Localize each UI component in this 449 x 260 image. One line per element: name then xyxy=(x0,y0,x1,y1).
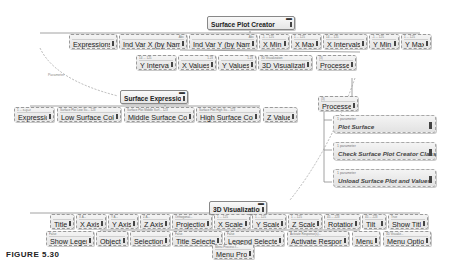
node-label: Processes xyxy=(322,102,351,111)
grip-icon[interactable] xyxy=(207,221,209,226)
grip-icon[interactable] xyxy=(251,62,253,67)
objects-node[interactable]: Objects xyxy=(96,231,128,246)
grip-icon[interactable] xyxy=(355,221,357,226)
collapse-icon[interactable]: ▬ xyxy=(286,16,292,21)
y-scale-node[interactable]: 1 ... 125 Y Scale xyxy=(252,214,286,229)
3d-visualization-node[interactable]: 3D Visualization ▬ xyxy=(209,201,267,215)
grip-icon[interactable] xyxy=(279,238,281,243)
expression-node[interactable]: 1 ... x+y+z Expression xyxy=(14,107,54,122)
grip-icon[interactable] xyxy=(351,62,353,67)
show-title-node[interactable]: True Show Title xyxy=(388,214,428,229)
grip-icon[interactable] xyxy=(133,221,135,226)
show-legend-node[interactable]: False Show Legend xyxy=(46,231,94,246)
grip-icon[interactable] xyxy=(284,41,286,46)
node-label: Ind Var X (by Name) xyxy=(123,40,180,49)
grip-icon[interactable] xyxy=(123,238,125,243)
low-surface-color-node[interactable]: Surface Plot Low Su... 123 Low Surface C… xyxy=(57,107,121,122)
collapse-icon[interactable]: ▬ xyxy=(258,201,264,206)
grip-icon[interactable] xyxy=(394,41,396,46)
grip-icon[interactable] xyxy=(189,114,191,119)
process-unload[interactable]: 1 parameter Unload Surface Plot and Valu… xyxy=(333,169,436,187)
grip-icon[interactable] xyxy=(316,41,318,46)
grip-icon[interactable] xyxy=(317,221,319,226)
grip-icon[interactable] xyxy=(292,114,294,119)
title-node[interactable]: Title xyxy=(50,214,74,229)
y-min-node[interactable]: -1 ... 125 Y Min xyxy=(369,34,399,49)
ind-var-y-node[interactable]: Abc Ind Var Y (by Name) xyxy=(189,34,257,49)
x-max-node[interactable]: 1 ... 125 X Max xyxy=(291,34,321,49)
node-label: Menu Process xyxy=(216,250,247,259)
high-surface-color-node[interactable]: Surface Plot High Su... 123 High Surface… xyxy=(196,107,260,122)
grip-icon[interactable] xyxy=(165,221,167,226)
grip-icon[interactable] xyxy=(255,114,257,119)
selections-node[interactable]: Selections xyxy=(130,231,170,246)
grip-icon[interactable] xyxy=(89,238,91,243)
x-scale-node[interactable]: 1 ... 125 X Scale xyxy=(214,214,250,229)
grip-icon[interactable] xyxy=(353,103,355,108)
grip-icon[interactable] xyxy=(429,176,432,183)
grip-icon[interactable] xyxy=(211,62,213,67)
grip-icon[interactable] xyxy=(381,221,383,226)
y-values-node[interactable]: 1.23 Y Values xyxy=(218,55,256,70)
grip-icon[interactable] xyxy=(101,221,103,226)
x-axis-node[interactable]: X A... X Axis xyxy=(76,214,106,229)
grip-icon[interactable] xyxy=(69,221,71,226)
menu-options-node[interactable]: 3D Visualiz... Menu Options xyxy=(383,231,431,246)
middle-surface-color-node[interactable]: Surface Plot Middle Surf... 123 Middle S… xyxy=(124,107,194,122)
node-label: Menu Options xyxy=(387,237,424,246)
grip-icon[interactable] xyxy=(49,114,51,119)
grip-icon[interactable] xyxy=(429,122,432,129)
menu-process-node[interactable]: Menu Process f... Menu Process xyxy=(212,244,254,259)
process-check-class[interactable]: 1 parameter Check Surface Plot Creator C… xyxy=(333,142,436,160)
grip-icon[interactable] xyxy=(217,238,219,243)
node-label: Tilt xyxy=(366,220,379,229)
process-plot-surface[interactable]: 1 parameter Plot Surface xyxy=(333,115,436,133)
grip-icon[interactable] xyxy=(262,207,264,212)
grip-icon[interactable] xyxy=(182,41,184,46)
grip-icon[interactable] xyxy=(426,41,428,46)
node-label: X Scale xyxy=(218,220,243,229)
activate-response-node[interactable]: Activate Response(s)... Activate Respons… xyxy=(287,231,349,246)
grip-icon[interactable] xyxy=(252,41,254,46)
grip-icon[interactable] xyxy=(344,238,346,243)
grip-icon[interactable] xyxy=(307,62,309,67)
processes-ref-node[interactable]: (3) Processes xyxy=(316,55,356,70)
grip-icon[interactable] xyxy=(290,22,292,27)
grip-icon[interactable] xyxy=(112,41,114,46)
menu-node[interactable]: Menu xyxy=(352,231,380,246)
expressions-node[interactable]: Expressions xyxy=(69,34,117,49)
y-axis-node[interactable]: Y A... Y Axis xyxy=(108,214,138,229)
surface-plot-creator-node[interactable]: Surface Plot Creator ▬ xyxy=(207,16,295,30)
y-intervals-node[interactable]: 14 ... 125 Y Intervals xyxy=(136,55,176,70)
grip-icon[interactable] xyxy=(171,62,173,67)
ind-var-x-node[interactable]: Abc Ind Var X (by Name) xyxy=(119,34,187,49)
node-label: Selections xyxy=(134,237,163,246)
grip-icon[interactable] xyxy=(281,221,283,226)
z-scale-node[interactable]: 1 ... 125 Z Scale xyxy=(288,214,322,229)
x-intervals-node[interactable]: 14 ... 125 X Intervals xyxy=(323,34,367,49)
grip-icon[interactable] xyxy=(429,149,432,156)
z-values-node[interactable]: Z Values xyxy=(263,107,297,122)
grip-icon[interactable] xyxy=(183,96,185,101)
node-label: 3D Visualization xyxy=(262,61,305,70)
y-max-node[interactable]: 1 ... 125 Y Max xyxy=(401,34,431,49)
surface-expression-node[interactable]: Surface Expression ▬ xyxy=(120,90,188,104)
grip-icon[interactable] xyxy=(165,238,167,243)
grip-icon[interactable] xyxy=(116,114,118,119)
node-label: Projection xyxy=(176,220,205,229)
grip-icon[interactable] xyxy=(362,41,364,46)
grip-icon[interactable] xyxy=(375,238,377,243)
grip-icon[interactable] xyxy=(245,221,247,226)
grip-icon[interactable] xyxy=(423,221,425,226)
x-min-node[interactable]: -1 ... 125 X Min xyxy=(259,34,289,49)
grip-icon[interactable] xyxy=(249,251,251,256)
rotation-node[interactable]: 45 ... 223 Rotation xyxy=(324,214,360,229)
projection-node[interactable]: Orthogonal... Projection xyxy=(172,214,212,229)
tilt-node[interactable]: 45 ... 223 Tilt xyxy=(362,214,386,229)
3d-visualization-ref-node[interactable]: 3D Visualization 3D Visualization xyxy=(258,55,312,70)
x-values-node[interactable]: 1.23 X Values xyxy=(178,55,216,70)
collapse-icon[interactable]: ▬ xyxy=(179,90,185,95)
grip-icon[interactable] xyxy=(426,238,428,243)
z-axis-node[interactable]: Z A... Z Axis xyxy=(140,214,170,229)
processes-node[interactable]: (3) Processes xyxy=(318,96,358,111)
